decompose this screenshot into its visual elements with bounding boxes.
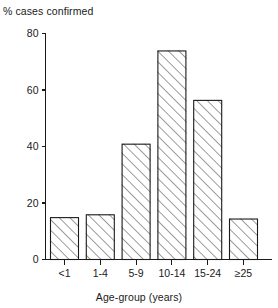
y-tick-label-80: 80 <box>27 27 39 39</box>
plot-area: 020406080 <11-45-910-1415-24≥25 <box>0 0 278 308</box>
y-tick-label-60: 60 <box>27 84 39 96</box>
y-tick-label-40: 40 <box>27 140 39 152</box>
bar-hatch-fill <box>157 50 186 259</box>
bar-5 <box>193 100 222 260</box>
bar-hatch-fill <box>50 217 79 259</box>
x-tick-label-2: 1-4 <box>93 267 108 279</box>
bar-hatch-fill <box>193 100 222 260</box>
y-tick-label-0: 0 <box>33 253 39 265</box>
bar-3 <box>122 144 151 260</box>
x-tick-labels-group: <11-45-910-1415-24≥25 <box>59 267 253 279</box>
bar-hatch-fill <box>122 144 151 260</box>
bar-hatch-fill <box>229 219 258 260</box>
x-axis-title: Age-group (years) <box>0 291 278 303</box>
bar-chart: % cases confirmed 020406080 <11-45-910-1… <box>0 0 278 308</box>
bar-hatch-fill <box>86 214 115 259</box>
x-tick-label-1: <1 <box>59 267 71 279</box>
bar-6 <box>229 219 258 260</box>
bar-4 <box>157 50 186 259</box>
x-tick-label-3: 5-9 <box>129 267 144 279</box>
x-tick-label-4: 10-14 <box>158 267 185 279</box>
x-tick-label-5: 15-24 <box>194 267 221 279</box>
y-tick-labels-group: 020406080 <box>27 27 39 265</box>
bar-2 <box>86 214 115 259</box>
bar-1 <box>50 217 79 259</box>
bars-group <box>50 50 258 259</box>
x-tick-label-6: ≥25 <box>235 267 253 279</box>
y-tick-label-20: 20 <box>27 197 39 209</box>
